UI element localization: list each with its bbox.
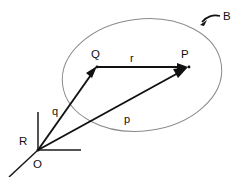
p-vector-group — [38, 67, 188, 150]
point-label-R: R — [19, 135, 27, 147]
q-vector-group — [38, 66, 97, 150]
vector-label-p: p — [124, 113, 130, 125]
region-label-pointer-group — [200, 15, 220, 26]
body-region-boundary — [56, 10, 228, 141]
point-marker-Q — [96, 66, 99, 69]
body-region-group — [56, 10, 228, 141]
region-label-leader-curve — [202, 15, 220, 22]
vector-diagram: B Q P R O q p r — [0, 0, 238, 177]
point-marker-P — [188, 66, 191, 69]
vector-diagram-canvas: B Q P R O q p r — [0, 0, 238, 177]
point-marker-O — [37, 149, 40, 152]
vector-label-r: r — [130, 52, 134, 64]
vector-label-q: q — [52, 105, 58, 117]
q-vector-shaft — [38, 72, 93, 150]
point-label-B: B — [223, 10, 231, 22]
q-vector-arrowhead — [86, 66, 97, 78]
point-label-O: O — [33, 158, 42, 170]
point-label-Q: Q — [91, 48, 100, 60]
point-label-P: P — [181, 48, 189, 60]
p-vector-shaft — [38, 72, 180, 150]
